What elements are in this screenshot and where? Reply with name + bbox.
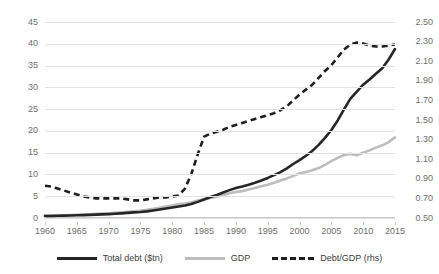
- x-axis-tick: [331, 222, 332, 225]
- y-axis-right-tick-label: 2.10: [399, 57, 433, 66]
- gridline: [45, 22, 395, 23]
- x-axis-tick-label: 1960: [35, 227, 55, 236]
- y-axis-right-tick-label: 1.50: [399, 116, 433, 125]
- y-axis-right-tick-label: 1.70: [399, 96, 433, 105]
- y-axis-right-tick-label: 1.30: [399, 135, 433, 144]
- y-axis-right-tick-label: 0.90: [399, 174, 433, 183]
- x-axis-tick: [236, 222, 237, 225]
- gridline: [45, 218, 395, 219]
- gridline: [45, 87, 395, 88]
- chart-title-clipped: [8, 0, 158, 4]
- x-axis-tick: [204, 222, 205, 225]
- x-axis-tick: [77, 222, 78, 225]
- x-axis-tick: [172, 222, 173, 225]
- gridline: [45, 131, 395, 132]
- series-line-total-debt: [45, 49, 395, 216]
- x-axis-tick-label: 2010: [353, 227, 373, 236]
- y-axis-left-tick-label: 20: [2, 126, 38, 135]
- x-axis-tick-label: 1985: [194, 227, 214, 236]
- x-axis-tick-label: 1980: [162, 227, 182, 236]
- legend-item-total-debt: Total debt ($tn): [57, 253, 163, 263]
- legend-swatch-gdp-icon: [185, 257, 225, 260]
- y-axis-right-tick-label: 1.10: [399, 155, 433, 164]
- y-axis-right-tick-label: 2.30: [399, 37, 433, 46]
- y-axis-right-tick-label: 1.90: [399, 76, 433, 85]
- legend-item-gdp: GDP: [185, 253, 251, 263]
- x-axis-tick-label: 2000: [290, 227, 310, 236]
- y-axis-left-tick-label: 25: [2, 105, 38, 114]
- gridline: [45, 109, 395, 110]
- y-axis-left: 051015202530354045: [0, 22, 38, 218]
- x-axis-tick: [268, 222, 269, 225]
- x-axis-tick-label: 2015: [385, 227, 405, 236]
- legend-swatch-debt-to-gdp-icon: [272, 257, 314, 260]
- y-axis-left-tick-label: 15: [2, 148, 38, 157]
- x-axis-tick: [300, 222, 301, 225]
- x-axis-tick-label: 1975: [130, 227, 150, 236]
- gridline: [45, 174, 395, 175]
- x-axis-tick-label: 1995: [258, 227, 278, 236]
- y-axis-right: 0.500.700.901.101.301.501.701.902.102.30…: [399, 22, 435, 218]
- x-axis-tick-label: 1970: [99, 227, 119, 236]
- legend-item-debt-to-gdp: Debt/GDP (rhs): [272, 253, 382, 263]
- series-line-gdp: [45, 137, 395, 215]
- legend-label-gdp: GDP: [231, 253, 251, 263]
- x-axis-tick: [395, 222, 396, 225]
- x-axis-tick-label: 1965: [67, 227, 87, 236]
- y-axis-left-tick-label: 45: [2, 18, 38, 27]
- x-axis-tick: [45, 222, 46, 225]
- gridline: [45, 66, 395, 67]
- chart-container: 051015202530354045 0.500.700.901.101.301…: [0, 0, 439, 274]
- legend-label-total-debt: Total debt ($tn): [103, 253, 163, 263]
- y-axis-left-tick-label: 40: [2, 39, 38, 48]
- y-axis-left-tick-label: 5: [2, 192, 38, 201]
- plot-area: [45, 22, 395, 218]
- x-axis-tick: [140, 222, 141, 225]
- series-layer: [45, 22, 395, 218]
- legend-label-debt-to-gdp: Debt/GDP (rhs): [320, 253, 382, 263]
- x-axis-tick: [363, 222, 364, 225]
- x-axis-tick-label: 1990: [226, 227, 246, 236]
- chart-legend: Total debt ($tn) GDP Debt/GDP (rhs): [0, 250, 439, 266]
- gridline: [45, 44, 395, 45]
- y-axis-right-tick-label: 2.50: [399, 18, 433, 27]
- y-axis-left-tick-label: 0: [2, 214, 38, 223]
- legend-swatch-total-debt-icon: [57, 257, 97, 260]
- gridline: [45, 153, 395, 154]
- y-axis-left-tick-label: 35: [2, 61, 38, 70]
- x-axis-tick-label: 2005: [321, 227, 341, 236]
- y-axis-left-tick-label: 10: [2, 170, 38, 179]
- y-axis-left-tick-label: 30: [2, 83, 38, 92]
- y-axis-right-tick-label: 0.70: [399, 194, 433, 203]
- y-axis-right-tick-label: 0.50: [399, 214, 433, 223]
- gridline: [45, 196, 395, 197]
- x-axis-tick: [109, 222, 110, 225]
- x-axis: 1960196519701975198019851990199520002005…: [45, 222, 395, 236]
